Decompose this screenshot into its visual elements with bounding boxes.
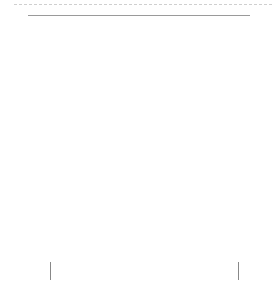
top-rule [14,4,272,5]
stitch-chart-grid [28,15,250,16]
repeat-end-line [238,262,239,280]
repeat-start-line [50,262,51,280]
